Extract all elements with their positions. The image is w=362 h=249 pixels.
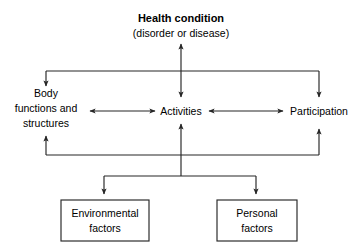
activities-label: Activities (160, 105, 201, 117)
health-condition-title: Health condition (138, 12, 224, 24)
environmental-factors-line-2: factors (89, 222, 121, 234)
icf-diagram: Health condition (disorder or disease) B… (0, 0, 362, 249)
health-condition-subtitle: (disorder or disease) (133, 27, 229, 39)
participation-label: Participation (290, 105, 348, 117)
personal-factors-line-1: Personal (236, 207, 277, 219)
personal-factors-line-2: factors (241, 222, 273, 234)
environmental-factors-line-1: Environmental (71, 207, 138, 219)
body-functions-line-3: structures (23, 117, 69, 129)
diagram-canvas: Health condition (disorder or disease) B… (0, 0, 362, 249)
body-functions-line-2: functions and (15, 102, 78, 114)
body-functions-line-1: Body (34, 87, 59, 99)
